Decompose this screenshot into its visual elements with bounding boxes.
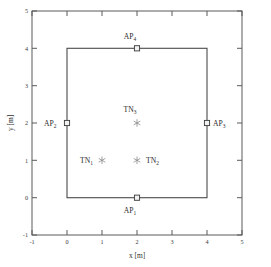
x-tick-label: 4 — [205, 238, 208, 245]
y-tick-label: 0 — [25, 194, 28, 201]
y-tick-label: 5 — [25, 7, 28, 14]
y-tick-label: 3 — [25, 82, 28, 89]
ap4-marker[interactable] — [134, 46, 139, 51]
tn3-label: TN3 — [124, 105, 137, 115]
target-node-markers — [99, 119, 141, 164]
x-tick-label: -1 — [29, 238, 34, 245]
figure-canvas: -1 0 1 2 3 4 5 -1 0 1 2 3 4 5 x [m] y [m… — [0, 0, 271, 267]
x-tick-label: 2 — [135, 238, 138, 245]
tn2-marker[interactable] — [134, 157, 141, 165]
tn1-marker[interactable] — [99, 157, 106, 165]
y-tick-labels: -1 0 1 2 3 4 5 — [23, 7, 28, 238]
ap2-marker[interactable] — [64, 120, 69, 125]
x-tick-labels: -1 0 1 2 3 4 5 — [29, 238, 243, 245]
tn3-marker[interactable] — [134, 119, 141, 127]
tn2-label: TN2 — [146, 156, 159, 166]
ap3-label: AP3 — [213, 119, 226, 129]
y-tick-label: 2 — [25, 119, 28, 126]
y-axis-title: y [m] — [6, 115, 15, 131]
ap4-label: AP4 — [124, 32, 137, 42]
tn1-label: TN1 — [80, 156, 93, 166]
x-tick-label: 3 — [170, 238, 173, 245]
x-axis-title: x [m] — [129, 251, 145, 260]
ap1-marker[interactable] — [134, 195, 139, 200]
scatter-plot: -1 0 1 2 3 4 5 -1 0 1 2 3 4 5 x [m] y [m… — [0, 0, 271, 267]
y-tick-label: 1 — [25, 157, 28, 164]
x-tick-label: 5 — [240, 238, 243, 245]
ap3-marker[interactable] — [204, 120, 209, 125]
x-tick-label: 0 — [65, 238, 68, 245]
y-tick-label: -1 — [23, 231, 28, 238]
ap1-label: AP1 — [124, 206, 137, 216]
x-tick-label: 1 — [100, 238, 103, 245]
ap2-label: AP2 — [44, 119, 57, 129]
y-tick-label: 4 — [25, 45, 28, 52]
